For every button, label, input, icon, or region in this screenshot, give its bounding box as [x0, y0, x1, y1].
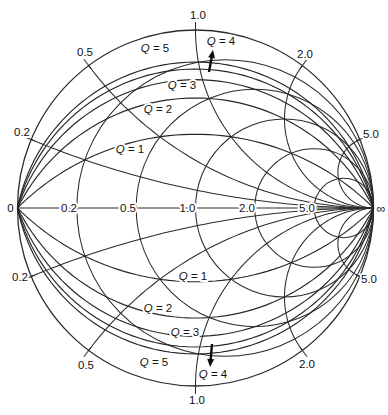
q-label-2-upper: Q = 2 — [144, 103, 172, 115]
q-label-1-lower: Q = 1 — [179, 270, 207, 282]
axis-label-infinity: ∞ — [377, 202, 386, 216]
annotation-arrow-shaft-down — [211, 344, 212, 361]
rim-label-lower-left: 0.5 — [78, 359, 94, 371]
smith-chart-figure: 0 0.2 0.5 1.0 2.0 5.0 ∞ 1.0 0.5 2.0 0.2 … — [0, 0, 388, 415]
q-label-5-upper: Q = 5 — [141, 42, 169, 54]
axis-label-5_0: 5.0 — [299, 202, 315, 214]
rim-label-left-lower: 0.2 — [12, 271, 28, 283]
axis-label-0_5: 0.5 — [120, 202, 136, 214]
rim-label-upper-right: 2.0 — [297, 48, 313, 60]
axis-label-0: 0 — [7, 202, 13, 214]
axis-label-0_2: 0.2 — [61, 202, 77, 214]
q-contour-1-upper — [18, 134, 374, 208]
q-label-3-upper: Q = 3 — [168, 79, 196, 91]
rim-label-right-upper: 5.0 — [363, 128, 379, 140]
q-contour-2-lower — [18, 208, 374, 318]
axis-label-2_0: 2.0 — [239, 202, 255, 214]
q-label-1-upper: Q = 1 — [116, 143, 144, 155]
rim-label-bottom: 1.0 — [189, 394, 205, 406]
q-label-3-lower: Q = 3 — [171, 326, 199, 338]
q-contour-2-upper — [18, 98, 374, 208]
rim-label-left-upper: 0.2 — [14, 126, 30, 138]
q-label-4-upper: Q = 4 — [207, 35, 236, 47]
q-contour-3-upper — [18, 80, 374, 208]
q-label-4-lower: Q = 4 — [199, 368, 228, 380]
rim-label-right-lower: 5.0 — [361, 273, 377, 285]
rim-label-lower-right: 2.0 — [299, 358, 315, 370]
rim-label-upper-left: 0.5 — [77, 46, 93, 58]
smith-chart-canvas: 0 0.2 0.5 1.0 2.0 5.0 ∞ 1.0 0.5 2.0 0.2 … — [0, 0, 388, 415]
annotation-arrow-head-up — [208, 50, 215, 58]
q-label-2-lower: Q = 2 — [144, 302, 172, 314]
reactance-arc-2-upper — [285, 66, 374, 208]
q-label-5-lower: Q = 5 — [140, 356, 168, 368]
rim-label-top: 1.0 — [190, 9, 206, 21]
annotation-arrow-head-down — [207, 359, 214, 367]
axis-label-1_0: 1.0 — [180, 202, 196, 214]
